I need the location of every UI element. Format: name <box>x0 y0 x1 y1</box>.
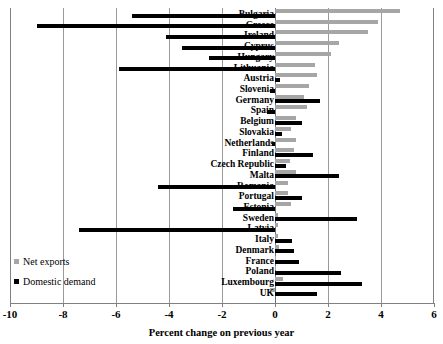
chart-row: Denmark <box>0 245 443 256</box>
bar-domestic-demand <box>275 260 299 264</box>
chart-legend: Net exports Domestic demand <box>14 256 95 296</box>
bar-net-exports <box>275 223 278 227</box>
category-label: Portugal <box>239 191 274 201</box>
category-label: Greece <box>246 20 274 30</box>
tick-mark <box>434 303 435 307</box>
category-label: Estonia <box>243 202 274 212</box>
bar-domestic-demand <box>275 121 302 125</box>
bar-net-exports <box>275 266 276 270</box>
category-label: Sweden <box>243 213 274 223</box>
chart-row: Greece <box>0 20 443 31</box>
category-label: France <box>246 256 275 266</box>
bar-net-exports <box>275 159 290 163</box>
bar-domestic-demand <box>37 24 276 28</box>
bar-domestic-demand <box>275 196 302 200</box>
tick-mark <box>328 303 329 307</box>
legend-item-domestic-demand: Domestic demand <box>14 276 95 287</box>
x-axis-title: Percent change on previous year <box>0 327 443 338</box>
chart-row: Czech Republic <box>0 159 443 170</box>
tick-mark <box>10 303 11 307</box>
bar-net-exports <box>275 73 317 77</box>
chart-row: Estonia <box>0 202 443 213</box>
category-label: Spain <box>251 105 274 115</box>
bar-domestic-demand <box>275 164 286 168</box>
bar-domestic-demand <box>275 271 341 275</box>
x-tick-label: -6 <box>96 308 136 320</box>
legend-label-net-exports: Net exports <box>23 256 69 267</box>
chart-row: Romania <box>0 181 443 192</box>
x-tick-label: -4 <box>149 308 189 320</box>
chart-row: Lithuania <box>0 63 443 74</box>
chart-row: Italy <box>0 234 443 245</box>
bar-net-exports <box>275 138 296 142</box>
category-label: Slovenia <box>240 84 274 94</box>
bar-net-exports <box>275 9 400 13</box>
bar-net-exports <box>275 52 331 56</box>
category-label: Belgium <box>240 116 274 126</box>
bar-domestic-demand <box>275 292 317 296</box>
bar-net-exports <box>275 105 307 109</box>
bar-chart: -10-8-6-4-20246 BulgariaGreeceIrelandCyp… <box>0 0 443 344</box>
x-tick-label: -8 <box>43 308 83 320</box>
category-label: Hungary <box>238 52 274 62</box>
category-label: Poland <box>245 266 274 276</box>
bar-domestic-demand <box>275 282 362 286</box>
category-label: Germany <box>235 95 274 105</box>
bar-net-exports <box>275 30 368 34</box>
bar-net-exports <box>275 20 378 24</box>
legend-swatch-domestic-demand-icon <box>14 279 19 284</box>
chart-row: Belgium <box>0 116 443 127</box>
category-label: Denmark <box>235 245 274 255</box>
bar-domestic-demand <box>275 99 320 103</box>
x-tick-label: 6 <box>414 308 443 320</box>
chart-row: Spain <box>0 105 443 116</box>
chart-row: Hungary <box>0 52 443 63</box>
x-tick-label: -2 <box>202 308 242 320</box>
bar-net-exports <box>275 234 278 238</box>
bar-net-exports <box>275 202 291 206</box>
tick-mark <box>222 303 223 307</box>
bar-net-exports <box>275 41 339 45</box>
tick-mark <box>63 303 64 307</box>
chart-row: Portugal <box>0 191 443 202</box>
bar-net-exports <box>275 213 278 217</box>
tick-mark <box>381 303 382 307</box>
chart-row: Austria <box>0 73 443 84</box>
category-label: Cyprus <box>244 41 274 51</box>
category-label: Finland <box>242 148 274 158</box>
bar-domestic-demand <box>275 153 313 157</box>
chart-row: Germany <box>0 95 443 106</box>
category-label: Malta <box>250 170 274 180</box>
chart-row: Bulgaria <box>0 9 443 20</box>
bar-net-exports <box>275 256 276 260</box>
bar-domestic-demand <box>275 174 339 178</box>
chart-row: Cyprus <box>0 41 443 52</box>
chart-row: Latvia <box>0 223 443 234</box>
category-label: Czech Republic <box>210 159 274 169</box>
chart-row: Netherlands <box>0 138 443 149</box>
category-label: UK <box>260 288 274 298</box>
x-tick-label: 0 <box>255 308 295 320</box>
bar-domestic-demand <box>275 249 294 253</box>
bar-net-exports <box>275 277 283 281</box>
chart-row: Ireland <box>0 30 443 41</box>
category-label: Netherlands <box>224 138 274 148</box>
category-label: Latvia <box>248 223 274 233</box>
bar-domestic-demand <box>275 78 280 82</box>
bar-net-exports <box>275 116 296 120</box>
bar-net-exports <box>275 191 288 195</box>
x-tick-label: -10 <box>0 308 30 320</box>
category-label: Lithuania <box>234 63 274 73</box>
chart-row: Slovenia <box>0 84 443 95</box>
tick-mark <box>275 303 276 307</box>
bar-net-exports <box>275 181 288 185</box>
chart-row: Finland <box>0 148 443 159</box>
legend-item-net-exports: Net exports <box>14 256 95 267</box>
x-tick-label: 2 <box>308 308 348 320</box>
bar-net-exports <box>275 127 291 131</box>
bar-domestic-demand <box>79 228 275 232</box>
bar-net-exports <box>275 84 309 88</box>
legend-label-domestic-demand: Domestic demand <box>23 276 95 287</box>
bar-net-exports <box>275 148 294 152</box>
bar-net-exports <box>275 245 279 249</box>
